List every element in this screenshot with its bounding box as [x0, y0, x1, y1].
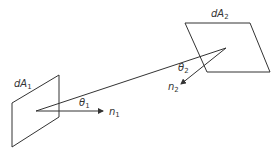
normal-n2-arrow [181, 48, 226, 84]
view-factor-diagram: dA1 dA2 θ1 θ2 n1 n2 [0, 0, 277, 154]
label-da2: dA2 [211, 8, 229, 21]
label-n1: n1 [109, 106, 120, 119]
label-da1: dA1 [14, 78, 32, 91]
label-n2: n2 [168, 81, 179, 94]
label-theta2: θ2 [178, 62, 189, 75]
connecting-line [36, 48, 226, 111]
label-theta1: θ1 [79, 97, 90, 110]
surface-da2 [185, 23, 270, 72]
